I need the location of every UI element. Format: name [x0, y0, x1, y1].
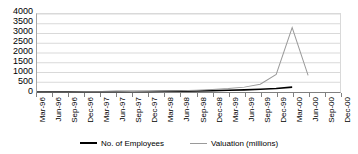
x-tick-label: Sep-00 [328, 97, 336, 123]
legend-item-employees: No. of Employees [80, 139, 164, 148]
x-tick-label: Sep-96 [71, 97, 79, 123]
y-axis: 40003500300025002000150010005000 [0, 10, 33, 94]
x-tick-label: Mar-98 [167, 97, 175, 122]
x-tick [341, 93, 342, 97]
x-tick-label: Sep-99 [264, 97, 272, 123]
x-tick-label: Dec-98 [216, 97, 224, 123]
y-tick-label: 3000 [0, 27, 33, 36]
y-tick-label: 3500 [0, 17, 33, 26]
x-axis: Mar-96Jun-96Sep-96Dec-96Mar-97Jun-97Sep-… [36, 97, 341, 133]
y-tick-label: 1000 [0, 67, 33, 76]
x-tick-label: Jun-97 [119, 97, 127, 121]
x-tick-label: Sep-98 [200, 97, 208, 123]
gridlines-group [37, 14, 340, 82]
y-tick-label: 2000 [0, 47, 33, 56]
legend-label-valuation: Valuation (millions) [211, 139, 278, 148]
y-tick-label: 0 [0, 87, 33, 96]
x-tick-label: Mar-00 [296, 97, 304, 122]
x-tick-label: Mar-99 [232, 97, 240, 122]
x-tick-label: Sep-97 [135, 97, 143, 123]
chart-legend: No. of Employees Valuation (millions) [0, 136, 358, 150]
x-tick-label: Jun-98 [183, 97, 191, 121]
y-tick-label: 2500 [0, 37, 33, 46]
line-chart: 40003500300025002000150010005000 Mar-96J… [0, 0, 358, 154]
x-tick-label: Dec-00 [344, 97, 352, 123]
x-tick-label: Dec-96 [87, 97, 95, 123]
y-tick-label: 4000 [0, 7, 33, 16]
legend-label-employees: No. of Employees [101, 139, 164, 148]
legend-item-valuation: Valuation (millions) [190, 139, 278, 148]
x-tick-label: Dec-97 [151, 97, 159, 123]
x-tick-label: Jun-99 [248, 97, 256, 121]
y-tick-label: 1500 [0, 57, 33, 66]
x-tick-label: Mar-96 [39, 97, 47, 122]
series-lines [37, 14, 340, 92]
x-tick-label: Dec-99 [280, 97, 288, 123]
x-tick-label: Jun-96 [55, 97, 63, 121]
x-tick-label: Jun-00 [312, 97, 320, 121]
x-tick-label: Mar-97 [103, 97, 111, 122]
legend-line-icon-valuation [190, 143, 207, 144]
plot-area [36, 13, 341, 93]
y-tick-label: 500 [0, 77, 33, 86]
legend-line-icon-employees [80, 142, 97, 144]
